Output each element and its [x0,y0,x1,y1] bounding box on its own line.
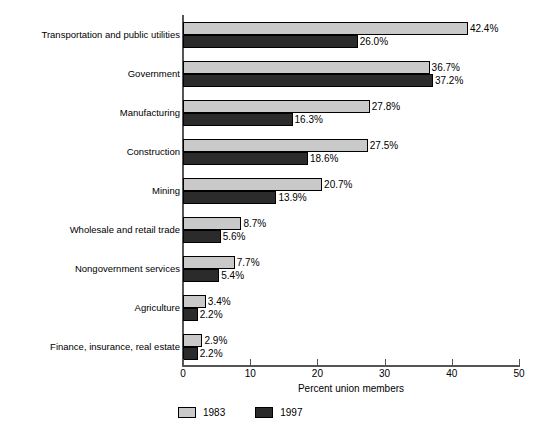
bar-row: 2.2% [183,308,519,321]
bar-group: 3.4%2.2% [183,295,519,321]
bar-row: 18.6% [183,152,519,165]
bar-value-label: 3.4% [206,295,231,308]
x-axis-title: Percent union members [183,383,519,394]
bar-value-label: 5.4% [219,269,244,282]
bar-1983[interactable] [183,61,430,74]
bar-row: 36.7% [183,61,519,74]
bar-group: 20.7%13.9% [183,178,519,204]
bar-1997[interactable] [183,35,358,48]
bar-group: 36.7%37.2% [183,61,519,87]
x-tick-label: 40 [437,368,467,380]
bar-value-label: 20.7% [322,178,352,191]
bar-value-label: 8.7% [241,217,266,230]
x-tick-label: 10 [235,368,265,380]
bar-1983[interactable] [183,22,468,35]
x-tick [183,359,184,366]
bar-value-label: 42.4% [468,22,498,35]
bar-value-label: 27.5% [368,139,398,152]
bar-value-label: 37.2% [433,74,463,87]
bar-row: 2.9% [183,334,519,347]
bar-value-label: 2.2% [198,308,223,321]
x-tick [317,359,318,366]
bar-row: 5.4% [183,269,519,282]
bar-1997[interactable] [183,230,221,243]
bar-1983[interactable] [183,217,241,230]
category-label: Government [5,68,183,79]
category-label: Construction [5,146,183,157]
legend-swatch-1983 [178,407,196,418]
legend-item-1997: 1997 [255,407,302,418]
bar-value-label: 7.7% [235,256,260,269]
bar-1997[interactable] [183,347,198,360]
bar-row: 26.0% [183,35,519,48]
bar-row: 27.5% [183,139,519,152]
category-label: Wholesale and retail trade [5,224,183,235]
legend-label-1997: 1997 [280,407,302,418]
bar-value-label: 36.7% [430,61,460,74]
x-tick [452,359,453,366]
bar-value-label: 18.6% [308,152,338,165]
category-label: Mining [5,185,183,196]
bar-1983[interactable] [183,178,322,191]
bar-group: 27.8%16.3% [183,100,519,126]
chart-legend: 1983 1997 [178,403,333,421]
bar-chart: Transportation and public utilitiesGover… [0,0,557,431]
legend-label-1983: 1983 [203,407,225,418]
bar-row: 27.8% [183,100,519,113]
bar-group: 8.7%5.6% [183,217,519,243]
category-label: Manufacturing [5,107,183,118]
legend-item-1983: 1983 [178,407,225,418]
category-label: Agriculture [5,302,183,313]
bar-row: 13.9% [183,191,519,204]
bar-1997[interactable] [183,152,308,165]
bar-group: 2.9%2.2% [183,334,519,360]
bar-group: 27.5%18.6% [183,139,519,165]
category-axis-labels: Transportation and public utilitiesGover… [0,15,183,366]
category-label: Transportation and public utilities [5,29,183,40]
bar-value-label: 5.6% [221,230,246,243]
bar-value-label: 16.3% [293,113,323,126]
bar-row: 42.4% [183,22,519,35]
x-tick [385,359,386,366]
bar-value-label: 13.9% [276,191,306,204]
x-tick-label: 20 [302,368,332,380]
bar-value-label: 2.9% [202,334,227,347]
plot-area: 42.4%26.0%36.7%37.2%27.8%16.3%27.5%18.6%… [183,15,519,366]
bar-1997[interactable] [183,308,198,321]
bar-value-label: 27.8% [370,100,400,113]
bar-group: 42.4%26.0% [183,22,519,48]
bar-1983[interactable] [183,100,370,113]
bar-1997[interactable] [183,113,293,126]
bar-row: 20.7% [183,178,519,191]
bar-1997[interactable] [183,74,433,87]
bar-1983[interactable] [183,139,368,152]
bar-value-label: 2.2% [198,347,223,360]
category-label: Nongovernment services [5,263,183,274]
bar-group: 7.7%5.4% [183,256,519,282]
x-tick [519,359,520,366]
bar-1983[interactable] [183,334,202,347]
bar-1983[interactable] [183,256,235,269]
x-tick-label: 50 [504,368,534,380]
bar-row: 5.6% [183,230,519,243]
bar-1997[interactable] [183,269,219,282]
legend-swatch-1997 [255,407,273,418]
bar-row: 3.4% [183,295,519,308]
x-tick-label: 0 [168,368,198,380]
x-tick-label: 30 [370,368,400,380]
bar-row: 7.7% [183,256,519,269]
bar-1997[interactable] [183,191,276,204]
bar-1983[interactable] [183,295,206,308]
category-label: Finance, insurance, real estate [5,341,183,352]
bar-value-label: 26.0% [358,35,388,48]
x-tick [250,359,251,366]
bar-row: 2.2% [183,347,519,360]
bar-row: 16.3% [183,113,519,126]
bar-row: 37.2% [183,74,519,87]
bar-row: 8.7% [183,217,519,230]
